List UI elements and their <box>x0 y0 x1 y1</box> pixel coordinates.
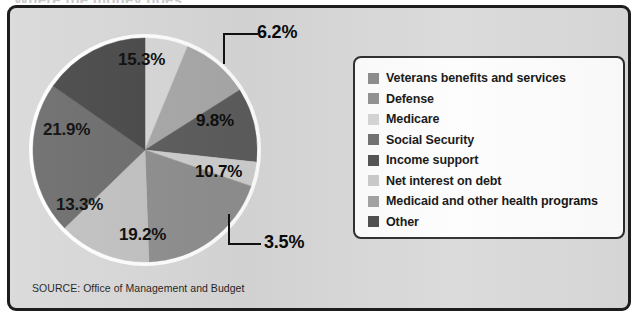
pie-chart-figure: Where the money goes 15.3% 9.8% 10.7% 19… <box>0 0 638 323</box>
legend-label-social-security: Social Security <box>386 133 474 147</box>
source-note: SOURCE: Office of Management and Budget <box>32 282 244 294</box>
legend-label-other: Other <box>386 215 419 229</box>
callout-label-net-interest: 6.2% <box>257 22 297 43</box>
slice-label-medicare: 13.3% <box>56 195 103 215</box>
legend-item-other: Other <box>368 212 623 233</box>
legend-item-medicaid-and-other-health-programs: Medicaid and other health programs <box>368 191 623 212</box>
cut-off-title-bleed: Where the money goes <box>0 0 638 3</box>
legend-label-income-support: Income support <box>386 153 478 167</box>
legend-swatch-net-interest <box>368 175 379 186</box>
legend-item-defense: Defense <box>368 89 623 110</box>
legend-item-veterans-benefits-and-services: Veterans benefits and services <box>368 68 623 89</box>
legend-item-medicare: Medicare <box>368 109 623 130</box>
slice-label-medicaid: 9.8% <box>196 111 234 131</box>
legend-swatch-medicaid <box>368 196 379 207</box>
legend-label-defense: Defense <box>386 92 434 106</box>
legend-label-medicare: Medicare <box>386 112 439 126</box>
slice-label-social-security: 21.9% <box>43 120 90 140</box>
legend-swatch-social-security <box>368 134 379 145</box>
legend-label-medicaid: Medicaid and other health programs <box>386 194 598 208</box>
legend-swatch-defense <box>368 93 379 104</box>
legend-label-net-interest: Net interest on debt <box>386 174 501 188</box>
legend-swatch-medicare <box>368 114 379 125</box>
chart-panel: 15.3% 9.8% 10.7% 19.2% 13.3% 21.9% 6.2% … <box>7 5 631 311</box>
legend-swatch-income-support <box>368 155 379 166</box>
legend: Veterans benefits and services Defense M… <box>353 56 625 239</box>
legend-item-social-security: Social Security <box>368 130 623 151</box>
legend-swatch-other <box>368 216 379 227</box>
slice-label-other: 15.3% <box>118 50 165 70</box>
legend-item-income-support: Income support <box>368 150 623 171</box>
legend-label-veterans: Veterans benefits and services <box>386 71 566 85</box>
slice-label-defense: 19.2% <box>119 225 166 245</box>
slice-label-income-support: 10.7% <box>195 162 242 182</box>
legend-swatch-veterans <box>368 73 379 84</box>
callout-label-veterans: 3.5% <box>264 232 304 253</box>
legend-item-net-interest-on-debt: Net interest on debt <box>368 171 623 192</box>
